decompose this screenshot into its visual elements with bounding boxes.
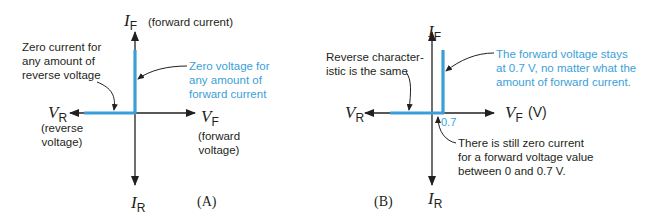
- panel-a-caption: (A): [197, 194, 216, 210]
- panel-b-ir-label: IR: [428, 190, 442, 213]
- panel-b-forward-leader: [446, 53, 494, 71]
- panel-b-vr-label: VR: [345, 104, 364, 127]
- diagram-canvas: [0, 0, 663, 219]
- panel-a-vf-description: (forward voltage): [193, 129, 245, 157]
- panel-b-vf-label: VF: [505, 104, 523, 127]
- panel-b-zero-current-annotation: There is still zero current for a forwar…: [458, 136, 594, 178]
- panel-b-forward-annotation: The forward voltage stays at 0.7 V, no m…: [496, 47, 636, 89]
- panel-a-reverse-annotation: Zero current for any amount of reverse v…: [22, 40, 101, 82]
- panel-a-vr-description: (reverse voltage): [34, 121, 90, 149]
- panel-a-forward-leader: [138, 66, 187, 79]
- panel-a-vf-label: VF: [201, 108, 219, 131]
- panel-b-caption: (B): [374, 194, 393, 210]
- panel-b-reverse-annotation: Reverse character- istic is the same: [326, 50, 424, 78]
- panel-a-forward-annotation: Zero voltage for any amount of forward c…: [189, 59, 270, 101]
- panel-b-tick-0-7: 0.7: [441, 115, 456, 129]
- panel-a-reverse-leader: [97, 82, 114, 110]
- panel-b-if-label: IF: [428, 23, 441, 46]
- panel-a-if-label: IF: [124, 12, 137, 35]
- panel-a-ir-label: IR: [131, 194, 145, 217]
- panel-b-vf-unit: (V): [528, 105, 547, 119]
- panel-a-if-description: (forward current): [148, 15, 233, 29]
